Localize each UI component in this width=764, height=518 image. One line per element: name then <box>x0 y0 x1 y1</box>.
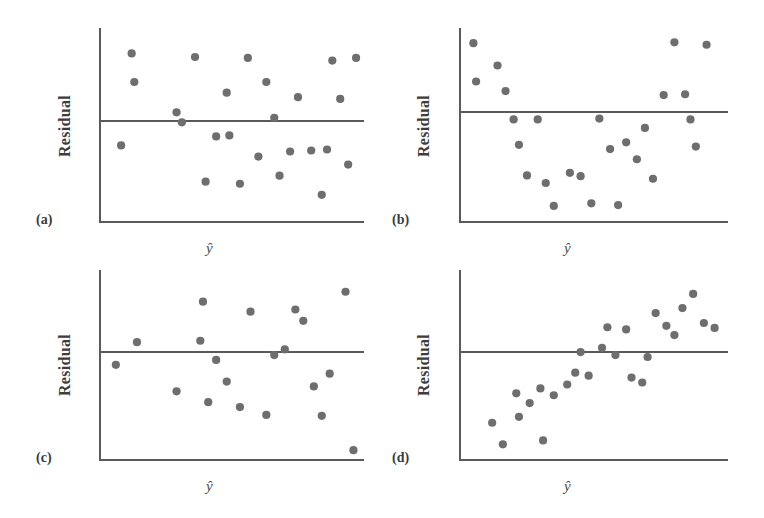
data-point <box>488 419 496 427</box>
data-point <box>536 384 544 392</box>
data-point <box>307 146 315 154</box>
data-point <box>539 436 547 444</box>
data-point <box>133 338 141 346</box>
data-point <box>515 413 523 421</box>
panel-d: (d) Residual ŷ <box>382 264 764 514</box>
panel-b-plot-area <box>382 14 764 264</box>
data-point <box>270 114 278 122</box>
data-point <box>244 54 252 62</box>
data-point <box>633 155 641 163</box>
data-point <box>585 372 593 380</box>
data-point <box>534 115 542 123</box>
data-point <box>262 411 270 419</box>
data-point <box>700 319 708 327</box>
data-point <box>711 324 719 332</box>
data-point <box>638 378 646 386</box>
data-point <box>246 308 254 316</box>
data-point <box>649 175 657 183</box>
panel-d-plot-area <box>382 264 764 514</box>
data-point <box>512 389 520 397</box>
data-point <box>563 380 571 388</box>
data-point <box>686 115 694 123</box>
panel-a: (a) Residual ŷ <box>0 14 382 264</box>
data-point <box>130 78 138 86</box>
panel-c-plot-area <box>0 264 382 514</box>
data-point <box>692 142 700 150</box>
data-point <box>678 304 686 312</box>
data-point <box>341 288 349 296</box>
data-point <box>493 61 501 69</box>
data-point <box>469 39 477 47</box>
data-point <box>128 49 136 57</box>
data-point <box>172 387 180 395</box>
data-point <box>595 114 603 122</box>
data-point <box>328 56 336 64</box>
residual-plots-figure: (a) Residual ŷ (b) Residual ŷ (c) Residu… <box>0 0 764 518</box>
data-point <box>550 202 558 210</box>
data-point <box>542 179 550 187</box>
data-point <box>112 361 120 369</box>
panel-b-points <box>469 38 710 210</box>
data-point <box>202 178 210 186</box>
data-point <box>550 391 558 399</box>
data-point <box>689 290 697 298</box>
data-point <box>526 399 534 407</box>
data-point <box>212 132 220 140</box>
data-point <box>254 152 262 160</box>
data-point <box>627 374 635 382</box>
data-point <box>336 95 344 103</box>
data-point <box>294 93 302 101</box>
data-point <box>566 169 574 177</box>
panel-c-points <box>112 288 358 455</box>
data-point <box>662 322 670 330</box>
data-point <box>204 398 212 406</box>
panel-d-points <box>488 290 719 449</box>
data-point <box>702 41 710 49</box>
data-point <box>344 161 352 169</box>
panel-c: (c) Residual ŷ <box>0 264 382 514</box>
data-point <box>291 305 299 313</box>
data-point <box>606 145 614 153</box>
data-point <box>644 353 652 361</box>
data-point <box>352 54 360 62</box>
data-point <box>223 377 231 385</box>
data-point <box>603 323 611 331</box>
data-point <box>236 180 244 188</box>
data-point <box>191 53 199 61</box>
data-point <box>270 351 278 359</box>
data-point <box>622 325 630 333</box>
data-point <box>310 382 318 390</box>
data-point <box>611 351 619 359</box>
data-point <box>614 201 622 209</box>
data-point <box>178 118 186 126</box>
data-point <box>172 108 180 116</box>
data-point <box>515 141 523 149</box>
data-point <box>472 77 480 85</box>
data-point <box>318 191 326 199</box>
data-point <box>199 298 207 306</box>
data-point <box>323 145 331 153</box>
panel-b: (b) Residual ŷ <box>382 14 764 264</box>
data-point <box>326 370 334 378</box>
panel-a-points <box>117 49 360 199</box>
data-point <box>577 172 585 180</box>
data-point <box>510 115 518 123</box>
data-point <box>681 90 689 98</box>
data-point <box>670 331 678 339</box>
data-point <box>622 138 630 146</box>
data-point <box>499 440 507 448</box>
data-point <box>196 337 204 345</box>
data-point <box>501 87 509 95</box>
data-point <box>652 309 660 317</box>
data-point <box>299 317 307 325</box>
data-point <box>225 131 233 139</box>
data-point <box>641 124 649 132</box>
data-point <box>577 348 585 356</box>
data-point <box>587 199 595 207</box>
data-point <box>281 345 289 353</box>
data-point <box>670 38 678 46</box>
panel-a-plot-area <box>0 14 382 264</box>
data-point <box>117 141 125 149</box>
data-point <box>262 78 270 86</box>
data-point <box>598 344 606 352</box>
